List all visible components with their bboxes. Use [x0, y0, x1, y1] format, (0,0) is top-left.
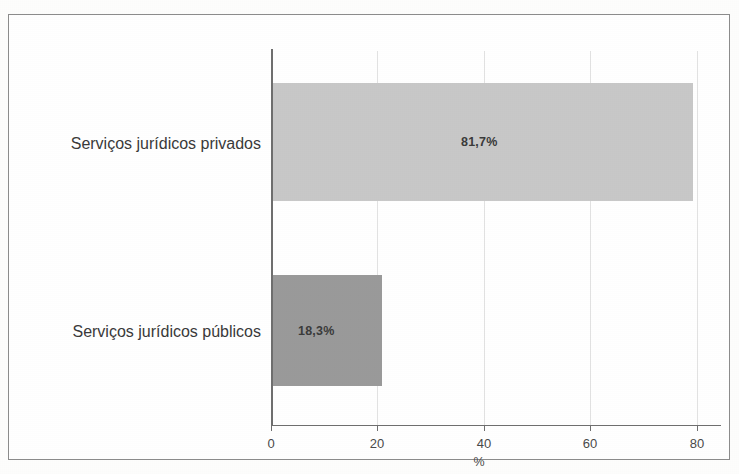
x-tick-label-60: 60 — [583, 436, 597, 451]
y-axis-line — [271, 49, 273, 426]
x-tick-label-40: 40 — [477, 436, 491, 451]
x-axis-title: % — [9, 455, 729, 469]
bar-value-label-1: 18,3% — [298, 324, 334, 338]
x-tick-mark-80 — [697, 425, 698, 431]
bar-value-label-0: 81,7% — [461, 135, 497, 149]
plot-area: 81,7% 18,3% — [271, 51, 697, 425]
category-label-servicos-juridicos-privados: Serviços jurídicos privados — [69, 135, 261, 153]
x-tick-label-0: 0 — [267, 436, 274, 451]
x-tick-mark-0 — [271, 425, 272, 431]
chart-figure-frame: 81,7% 18,3% 0 20 40 60 80 Serviços juríd… — [8, 14, 730, 460]
category-label-servicos-juridicos-publicos: Serviços jurídicos públicos — [69, 323, 261, 341]
x-tick-label-80: 80 — [690, 436, 704, 451]
x-tick-mark-40 — [484, 425, 485, 431]
gridline-80 — [697, 51, 698, 425]
x-tick-label-20: 20 — [370, 436, 384, 451]
x-tick-mark-20 — [377, 425, 378, 431]
x-tick-mark-60 — [590, 425, 591, 431]
x-axis-line — [271, 425, 721, 426]
